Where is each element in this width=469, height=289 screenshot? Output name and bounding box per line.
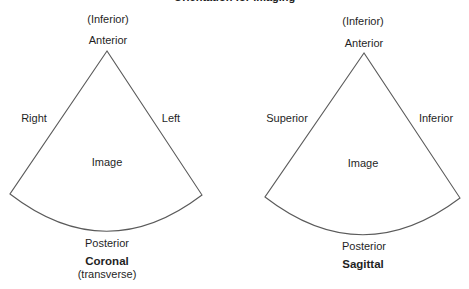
sagittal-plane-name: Sagittal <box>342 258 384 271</box>
coronal-right-label: Left <box>162 112 180 125</box>
sagittal-fan-outline <box>265 53 460 235</box>
sagittal-left-label: Superior <box>266 112 308 125</box>
coronal-top-note: (Inferior) <box>87 13 129 26</box>
coronal-left-label: Right <box>21 112 47 125</box>
coronal-plane-subtitle: (transverse) <box>78 268 137 281</box>
sagittal-top-note: (Inferior) <box>342 15 384 28</box>
coronal-fan-outline <box>10 51 202 231</box>
coronal-plane-name: Coronal <box>85 255 128 268</box>
coronal-bottom-label: Posterior <box>85 237 129 250</box>
sagittal-bottom-label: Posterior <box>342 240 386 253</box>
sagittal-right-label: Inferior <box>419 112 453 125</box>
sagittal-apex-label: Anterior <box>345 37 384 50</box>
coronal-center-label: Image <box>92 156 123 169</box>
fan-diagrams <box>0 0 469 289</box>
coronal-apex-label: Anterior <box>89 34 128 47</box>
sagittal-center-label: Image <box>348 157 379 170</box>
